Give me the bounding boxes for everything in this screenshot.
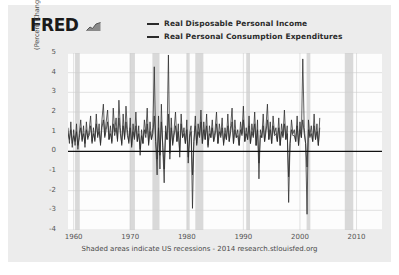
x-tick-label: 1960 — [65, 233, 83, 241]
y-tick-label: 5 — [30, 49, 56, 56]
y-tick-label: -4 — [30, 226, 56, 233]
legend-swatch-icon — [147, 36, 159, 38]
legend-swatch-icon — [147, 23, 159, 25]
line-chart-icon — [86, 22, 101, 32]
x-tick-label: 1980 — [178, 233, 196, 241]
fred-chart-figure: FRED Real Disposable Personal Income Rea… — [8, 5, 391, 262]
legend-label: Real Disposable Personal Income — [164, 19, 307, 28]
y-tick-label: 0 — [30, 147, 56, 154]
y-tick-label: 4 — [30, 69, 56, 76]
legend-label: Real Personal Consumption Expenditures — [164, 32, 343, 41]
y-tick-label: 3 — [30, 88, 56, 95]
legend-item-0: Real Disposable Personal Income — [147, 18, 343, 29]
y-tick-label: -2 — [30, 187, 56, 194]
y-tick-label: 1 — [30, 128, 56, 135]
chart-legend: Real Disposable Personal Income Real Per… — [147, 18, 343, 44]
recession-band — [345, 53, 353, 230]
plot-area — [68, 53, 382, 230]
x-tick-label: 2000 — [291, 233, 309, 241]
series-canvas — [68, 53, 382, 230]
chart-footer-note: Shaded areas indicate US recessions - 20… — [8, 245, 391, 253]
y-tick-label: 2 — [30, 108, 56, 115]
x-tick-label: 1970 — [121, 233, 139, 241]
legend-item-1: Real Personal Consumption Expenditures — [147, 31, 343, 42]
y-tick-label: -3 — [30, 206, 56, 213]
plot-wrapper: 543210-1-2-3-4 196019701980199020002010 — [60, 45, 382, 230]
x-tick-label: 1990 — [234, 233, 252, 241]
y-tick-label: -1 — [30, 167, 56, 174]
recession-band — [246, 53, 250, 230]
x-tick-label: 2010 — [348, 233, 366, 241]
